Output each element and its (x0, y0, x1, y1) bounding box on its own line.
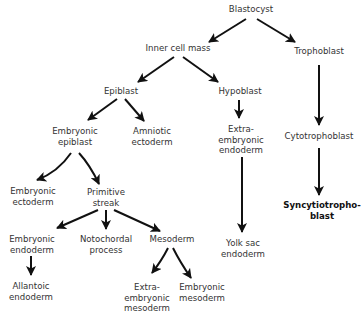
node-embryonic-mesoderm: Embryonic mesoderm (179, 282, 225, 303)
arrow-blastocyst-to-inner-cell-mass (209, 19, 246, 42)
node-cytotrophoblast: Cytotrophoblast (285, 131, 354, 142)
node-epiblast: Epiblast (104, 86, 138, 97)
arrow-mesoderm-to-embryonic-mesoderm (173, 248, 191, 278)
node-notochordal-process: Notochordal process (80, 234, 132, 255)
arrow-primitive-streak-to-mesoderm (114, 210, 160, 231)
node-hypoblast: Hypoblast (218, 86, 261, 97)
node-trophoblast: Trophoblast (294, 46, 344, 57)
arrow-embryonic-epiblast-to-embryonic-ectoderm (37, 153, 71, 180)
node-extraembryonic-endoderm: Extra- embryonic endoderm (218, 124, 264, 156)
node-syncytiotrophoblast: Syncytiotropho- blast (283, 200, 361, 221)
node-allantoic-endoderm: Allantoic endoderm (9, 281, 53, 302)
node-inner-cell-mass: Inner cell mass (145, 43, 210, 54)
node-primitive-streak: Primitive streak (87, 187, 125, 208)
arrow-embryonic-epiblast-to-primitive-streak (79, 153, 99, 184)
arrow-epiblast-to-embryonic-epiblast (88, 99, 117, 120)
node-amniotic-ectoderm: Amniotic ectoderm (131, 126, 172, 147)
arrow-mesoderm-to-extraembryonic-mesoderm (152, 248, 168, 273)
arrow-inner-cell-mass-to-epiblast (138, 57, 174, 82)
node-embryonic-epiblast: Embryonic epiblast (52, 126, 98, 147)
arrow-inner-cell-mass-to-hypoblast (183, 57, 218, 82)
node-blastocyst: Blastocyst (229, 4, 273, 15)
node-yolk-sac-endoderm: Yolk sac endoderm (221, 238, 265, 259)
node-embryonic-endoderm: Embryonic endoderm (9, 234, 55, 255)
node-embryonic-ectoderm: Embryonic ectoderm (10, 186, 56, 207)
arrow-primitive-streak-to-embryonic-endoderm (57, 210, 98, 228)
node-mesoderm: Mesoderm (150, 234, 195, 245)
arrow-epiblast-to-amniotic-ectoderm (125, 99, 144, 121)
node-extraembryonic-mesoderm: Extra- embryonic mesoderm (124, 282, 170, 314)
arrow-blastocyst-to-trophoblast (257, 19, 295, 42)
